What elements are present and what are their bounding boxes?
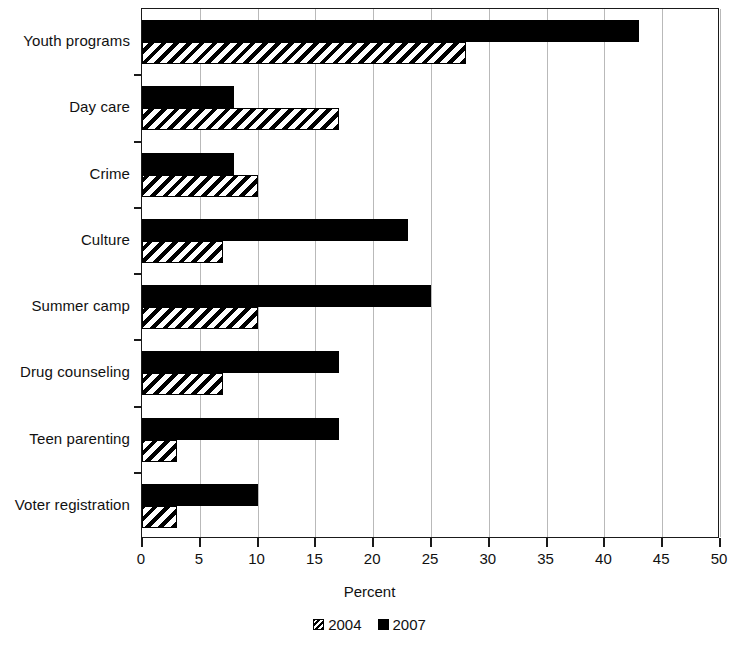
- hatched-square-icon: [313, 619, 324, 630]
- category-label: Drug counseling: [20, 364, 130, 380]
- x-axis-tick-label: 5: [179, 550, 219, 567]
- legend-label-2007: 2007: [393, 617, 426, 632]
- y-axis-tick: [134, 472, 142, 474]
- gridline: [547, 9, 548, 537]
- legend-item-2004: 2004: [313, 617, 361, 632]
- bar-2007: [142, 153, 234, 175]
- bar-2004: [142, 506, 177, 528]
- y-axis-tick: [134, 339, 142, 341]
- gridline: [604, 9, 605, 537]
- gridline: [431, 9, 432, 537]
- x-axis-tick: [141, 538, 143, 547]
- bar-2004: [142, 175, 258, 197]
- x-axis-tick-label: 40: [583, 550, 623, 567]
- bar-2004: [142, 241, 223, 263]
- bar-2004: [142, 373, 223, 395]
- x-axis-tick-label: 50: [699, 550, 739, 567]
- y-axis-tick: [134, 141, 142, 143]
- y-axis-tick: [134, 406, 142, 408]
- bar-2007: [142, 285, 431, 307]
- legend-label-2004: 2004: [328, 617, 361, 632]
- x-axis-tick-label: 35: [526, 550, 566, 567]
- bar-2007: [142, 418, 339, 440]
- gridline: [258, 9, 259, 537]
- category-label: Summer camp: [31, 298, 130, 314]
- gridline: [489, 9, 490, 537]
- x-axis-tick: [430, 538, 432, 547]
- category-label: Day care: [69, 99, 130, 115]
- category-label: Crime: [90, 166, 131, 182]
- x-axis-tick: [314, 538, 316, 547]
- chart-legend: 2004 2007: [0, 617, 739, 632]
- legend-item-2007: 2007: [378, 617, 426, 632]
- x-axis-tick: [257, 538, 259, 547]
- y-axis-tick: [134, 74, 142, 76]
- y-axis-tick: [134, 273, 142, 275]
- x-axis-title: Percent: [0, 583, 739, 600]
- x-axis-tick-label: 0: [121, 550, 161, 567]
- x-axis-tick-label: 10: [237, 550, 277, 567]
- bar-2007: [142, 20, 639, 42]
- category-label: Culture: [81, 232, 130, 248]
- x-axis-tick: [661, 538, 663, 547]
- bar-2007: [142, 86, 234, 108]
- y-axis-tick: [134, 207, 142, 209]
- x-axis-tick-label: 15: [294, 550, 334, 567]
- x-axis-tick-label: 20: [352, 550, 392, 567]
- gridline: [315, 9, 316, 537]
- category-label: Voter registration: [15, 497, 130, 513]
- bar-2004: [142, 108, 339, 130]
- category-label: Teen parenting: [29, 431, 130, 447]
- bar-2004: [142, 440, 177, 462]
- gridline: [662, 9, 663, 537]
- x-axis-tick: [603, 538, 605, 547]
- category-label: Youth programs: [23, 33, 130, 49]
- gridline: [720, 9, 721, 537]
- x-axis-tick: [488, 538, 490, 547]
- x-axis-tick: [199, 538, 201, 547]
- gridline: [373, 9, 374, 537]
- x-axis-tick-label: 30: [468, 550, 508, 567]
- bar-2004: [142, 42, 466, 64]
- bar-2004: [142, 307, 258, 329]
- bar-2007: [142, 484, 258, 506]
- x-axis-tick: [372, 538, 374, 547]
- bar-2007: [142, 351, 339, 373]
- solid-square-icon: [378, 619, 389, 630]
- x-axis-tick: [719, 538, 721, 547]
- horizontal-bar-chart: Youth programsDay careCrimeCultureSummer…: [0, 0, 739, 651]
- bar-2007: [142, 219, 408, 241]
- x-axis-tick: [546, 538, 548, 547]
- x-axis-tick-label: 25: [410, 550, 450, 567]
- plot-area: [141, 8, 719, 538]
- x-axis-tick-label: 45: [641, 550, 681, 567]
